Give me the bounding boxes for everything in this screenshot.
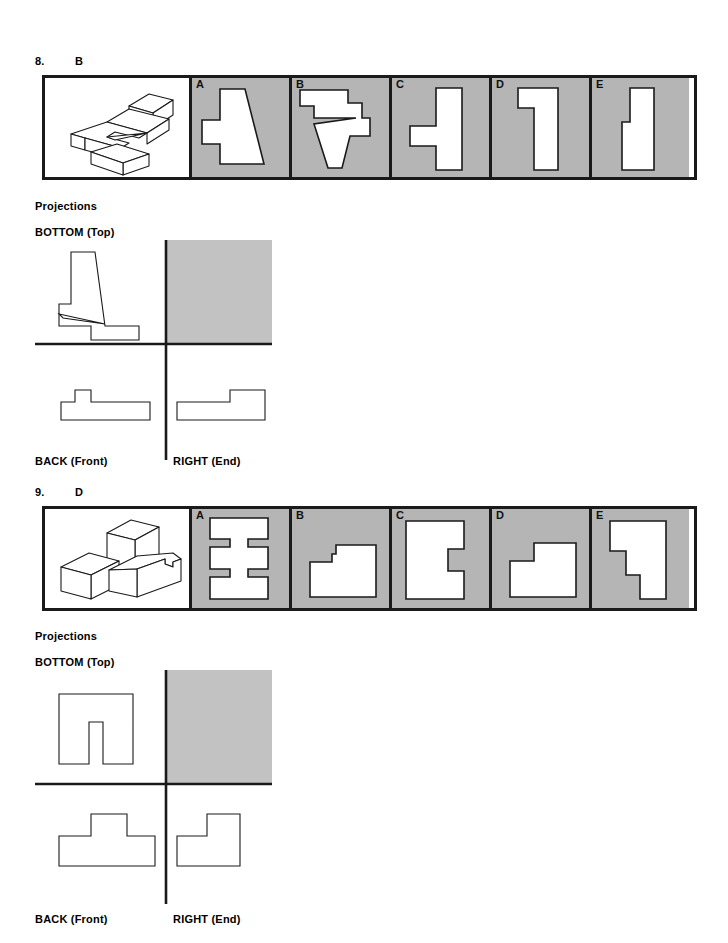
question-9-option-b-label: B [296,510,304,521]
question-8-option-e-silhouette [592,78,689,177]
question-9-side-label: RIGHT (End) [173,913,241,925]
question-8-option-b-silhouette [292,78,389,177]
question-9-option-a[interactable]: A [189,509,289,608]
question-8-top-view-shape [59,252,139,340]
question-9-projection-canvas [35,668,365,908]
question-9-option-e-label: E [596,510,603,521]
question-8-option-a[interactable]: A [189,78,289,177]
question-9-right-view-shape [177,814,240,866]
question-8-option-c-label: C [396,79,404,90]
question-8-right-view-shape [177,390,265,420]
question-8-isometric-drawing [45,78,189,177]
question-9-front-label: BACK (Front) [35,913,108,925]
question-9-shaded-quadrant [166,670,272,784]
question-8-front-view-shape [61,390,150,420]
question-9-option-c-label: C [396,510,404,521]
question-9-option-b[interactable]: B [289,509,389,608]
question-9-option-c-silhouette [392,509,489,608]
question-8-option-a-silhouette [192,78,289,177]
question-9-option-a-silhouette [192,509,289,608]
question-9-pictorial [45,509,189,608]
question-9-top-label: BOTTOM (Top) [35,656,115,668]
question-9-option-d-label: D [496,510,504,521]
question-9-option-e-silhouette [592,509,689,608]
question-9-option-strip: A B C D E [42,506,697,611]
question-8-projection-canvas [35,238,365,463]
question-9-isometric-drawing [45,509,189,608]
question-8-pictorial [45,78,189,177]
question-9-option-b-silhouette [292,509,389,608]
question-8-option-b[interactable]: B [289,78,389,177]
question-8-number: 8. [35,55,45,67]
question-8-option-d-silhouette [492,78,589,177]
question-9-option-a-label: A [196,510,204,521]
question-8-option-d[interactable]: D [489,78,589,177]
question-8-side-label: RIGHT (End) [173,455,241,467]
question-9-front-view-shape [59,814,155,866]
question-9-top-view-shape [59,694,133,764]
worksheet-page: 8. B [0,0,728,943]
question-8-option-c[interactable]: C [389,78,489,177]
question-8-option-d-label: D [496,79,504,90]
question-8-shaded-quadrant [166,240,272,344]
question-8-option-b-label: B [296,79,304,90]
question-8-projections-title: Projections [35,200,97,212]
question-9-option-d-silhouette [492,509,589,608]
question-9-option-e[interactable]: E [589,509,689,608]
question-8-answer: B [75,55,83,67]
question-9-option-d[interactable]: D [489,509,589,608]
question-8-option-e[interactable]: E [589,78,689,177]
question-8-top-label: BOTTOM (Top) [35,226,115,238]
question-9-option-c[interactable]: C [389,509,489,608]
question-8-option-c-silhouette [392,78,489,177]
question-8-front-label: BACK (Front) [35,455,108,467]
question-8-option-a-label: A [196,79,204,90]
question-9-answer: D [75,486,83,498]
question-8-option-e-label: E [596,79,603,90]
question-8-option-strip: A B C D E [42,75,697,180]
question-9-projections-title: Projections [35,630,97,642]
question-9-number: 9. [35,486,45,498]
